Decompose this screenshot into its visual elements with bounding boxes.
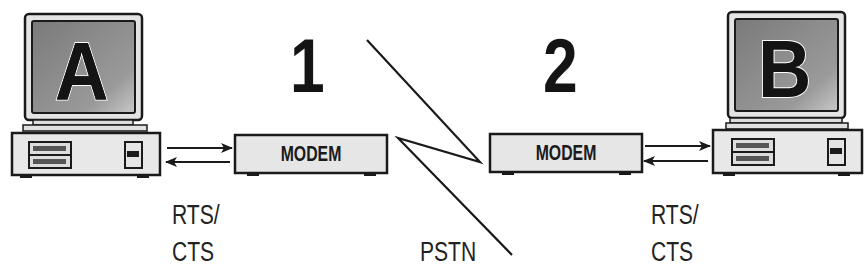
diagram-graphics (0, 0, 865, 272)
computer-b-letter: B (758, 28, 811, 110)
modem-1-label: MODEM (256, 140, 365, 168)
left-flow-label-line1: RTS/ (172, 200, 220, 230)
flow-arrows-left (166, 148, 232, 162)
modem-2-number: 2 (543, 28, 578, 104)
right-flow-label-line1: RTS/ (651, 200, 699, 230)
left-flow-label-line2: CTS (172, 237, 214, 267)
computer-a-letter: A (55, 30, 108, 112)
modem-2-label: MODEM (511, 139, 620, 167)
pstn-label: PSTN (420, 237, 476, 267)
modem-1-number: 1 (290, 28, 325, 104)
flow-arrows-right (644, 146, 710, 161)
right-flow-label-line2: CTS (651, 237, 693, 267)
modem-diagram: A B 1 2 MODEM MODEM RTS/ CTS RTS/ CTS PS… (0, 0, 865, 272)
